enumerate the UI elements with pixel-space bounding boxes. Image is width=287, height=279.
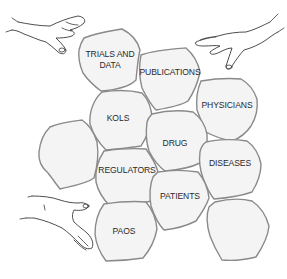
piece-label: PHYSICIANS [201, 100, 252, 110]
piece-label: DRUG [163, 138, 188, 148]
piece-trials-and-data: TRIALS ANDDATA [79, 29, 140, 91]
hand-bottom-left-icon [20, 196, 93, 250]
piece-kols: KOLS [90, 91, 152, 150]
hand-top-left-icon [6, 16, 85, 54]
hand-top-right-icon [195, 14, 284, 69]
piece-label: REGULATORS [98, 165, 156, 175]
piece-publications: PUBLICATIONS [139, 48, 201, 110]
piece-drug: DRUG [146, 111, 207, 171]
piece-label: DISEASES [209, 158, 252, 168]
piece-diseases: DISEASES [200, 140, 261, 199]
diagram-canvas: TRIALS ANDDATA PUBLICATIONS KOLS PHYSICI… [0, 0, 287, 279]
piece-blank-bottom-right [207, 199, 269, 260]
piece-paos: PAOS [95, 202, 157, 261]
piece-label: PAOS [113, 226, 136, 236]
piece-label: PUBLICATIONS [139, 67, 201, 77]
piece-label: PATIENTS [160, 191, 200, 201]
piece-blank-left [39, 120, 98, 189]
puzzle-diagram: TRIALS ANDDATA PUBLICATIONS KOLS PHYSICI… [0, 0, 287, 279]
piece-patients: PATIENTS [150, 171, 209, 231]
piece-regulators: REGULATORS [96, 149, 158, 206]
piece-label: KOLS [107, 113, 130, 123]
